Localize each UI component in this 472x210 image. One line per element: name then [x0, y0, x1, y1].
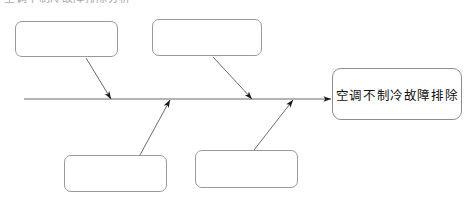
- connector-cause-2: [213, 57, 252, 99]
- connector-cause-3: [140, 100, 170, 155]
- cause-box-upper-left[interactable]: [15, 21, 118, 57]
- connector-cause-1: [86, 58, 111, 99]
- effect-head-label: 空调不制冷故障排除: [336, 85, 458, 104]
- fishbone-diagram-canvas: 空调不制冷故障排除分析 空调不制冷故障排除: [0, 0, 472, 210]
- cause-box-lower-right[interactable]: [195, 150, 298, 188]
- effect-head-box[interactable]: 空调不制冷故障排除: [332, 68, 462, 120]
- cause-box-lower-left[interactable]: [64, 155, 167, 192]
- connector-cause-4: [254, 100, 293, 150]
- cause-box-upper-right[interactable]: [152, 19, 262, 56]
- clipped-heading-text: 空调不制冷故障排除分析: [4, 0, 174, 5]
